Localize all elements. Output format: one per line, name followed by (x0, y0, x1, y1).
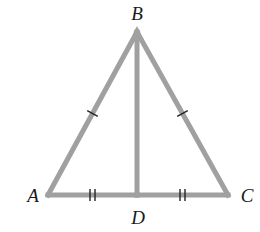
label-B: B (131, 3, 143, 24)
segments-layer (48, 26, 228, 195)
label-D: D (130, 207, 145, 228)
apex-join-B (133, 26, 141, 34)
label-A: A (25, 185, 39, 206)
triangle-diagram: B A C D (0, 0, 260, 232)
label-C: C (241, 185, 254, 206)
